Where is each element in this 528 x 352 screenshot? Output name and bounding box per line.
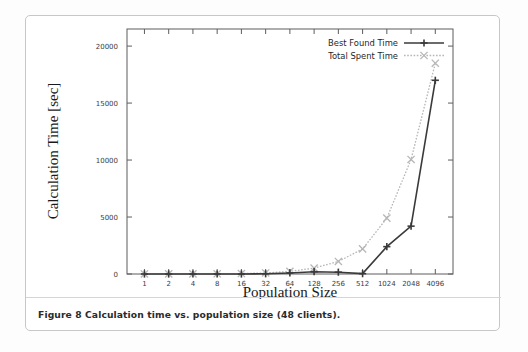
x-tick-label: 4 — [191, 280, 196, 288]
y-tick-label: 15000 — [96, 100, 118, 108]
x-tick-label: 1024 — [378, 280, 396, 288]
x-tick-label: 2 — [166, 280, 170, 288]
chart-plot-area: 05000100001500020000 1248163264128256512… — [26, 16, 501, 299]
x-tick-label: 8 — [215, 280, 219, 288]
y-tick-label: 10000 — [96, 157, 118, 165]
x-tick-label: 2048 — [402, 280, 420, 288]
y-tick-label: 5000 — [100, 214, 118, 222]
y-tick-label: 0 — [114, 271, 118, 279]
figure-caption: Figure 8 Calculation time vs. population… — [26, 297, 501, 330]
y-axis-title: Calculation Time [sec] — [45, 83, 61, 220]
figure-card: 05000100001500020000 1248163264128256512… — [25, 15, 500, 331]
x-tick-label: 512 — [356, 280, 369, 288]
legend-label: Best Found Time — [328, 38, 398, 48]
figure-page: 05000100001500020000 1248163264128256512… — [0, 0, 528, 352]
calculation-time-line-chart: 05000100001500020000 1248163264128256512… — [26, 16, 501, 299]
legend-label: Total Spent Time — [327, 51, 398, 61]
y-tick-label: 20000 — [96, 43, 118, 51]
figure-caption-text: Figure 8 Calculation time vs. population… — [38, 309, 340, 320]
x-tick-label: 1 — [142, 280, 146, 288]
x-tick-label: 4096 — [426, 280, 444, 288]
plot-frame — [127, 29, 453, 274]
